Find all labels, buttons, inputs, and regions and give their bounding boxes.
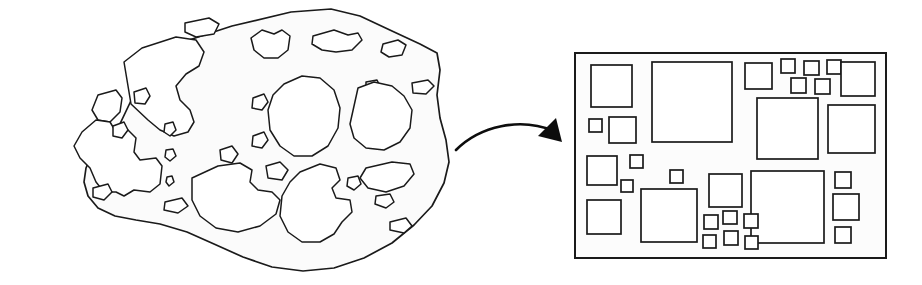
square-19 [670,170,683,183]
square-16 [621,180,633,192]
square-3 [745,63,772,89]
square-11 [609,117,636,143]
square-24 [744,214,758,228]
irregular-porous-shape [74,9,449,271]
square-14 [587,156,617,185]
arrow-head-icon [538,118,562,142]
square-7 [791,78,806,93]
square-29 [833,194,859,220]
square-4 [781,59,795,73]
void-left-edge-notch [92,90,122,122]
square-9 [841,62,875,96]
square-23 [723,211,737,224]
square-28 [835,172,851,188]
square-6 [827,60,841,74]
square-22 [704,215,718,229]
square-26 [703,235,716,248]
square-5 [804,61,819,75]
square-1 [591,65,632,107]
square-12 [757,98,818,159]
square-2 [652,62,732,142]
square-25 [724,231,738,245]
square-8 [815,79,830,94]
square-18 [641,189,697,242]
square-27 [745,236,758,249]
diagram-canvas [0,0,922,285]
square-20 [709,174,742,207]
square-10 [589,119,602,132]
arrow-shaft [456,124,554,150]
void-top-notch [185,18,219,37]
figure-root [0,0,922,285]
square-15 [630,155,643,168]
square-17 [587,200,621,234]
transformation-arrow [456,118,562,150]
square-13 [828,105,875,153]
square-30 [835,227,851,243]
idealized-square-packing [575,53,886,258]
square-21 [751,171,824,243]
